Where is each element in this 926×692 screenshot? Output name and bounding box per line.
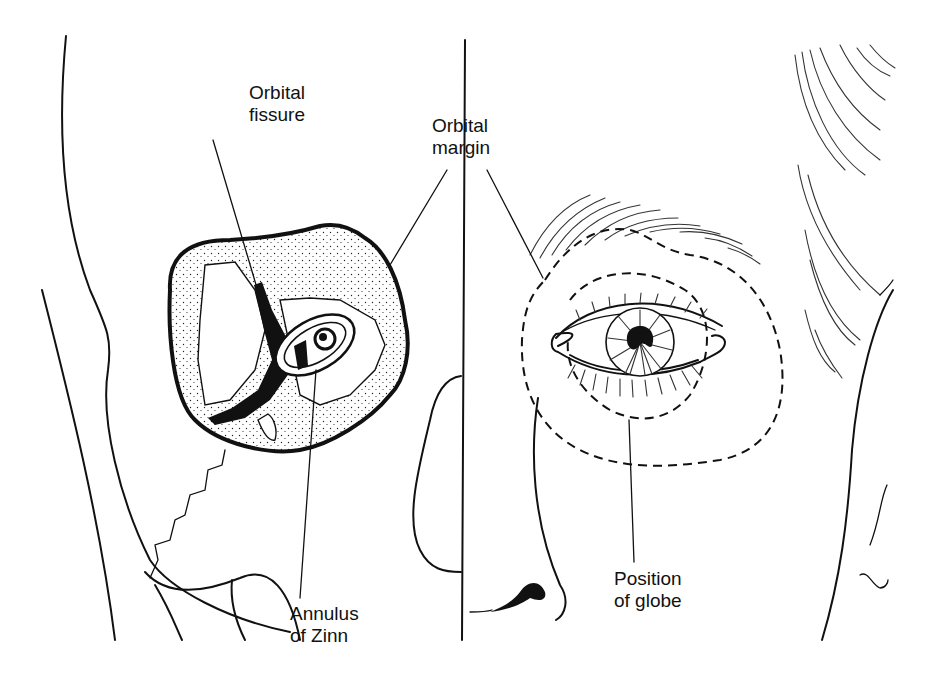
label-orbital-margin: Orbital margin xyxy=(432,115,490,159)
leader-globe xyxy=(629,420,634,562)
face-side xyxy=(470,45,895,640)
label-annulus-of-zinn: Annulus of Zinn xyxy=(290,603,359,647)
label-line: Orbital xyxy=(249,82,305,104)
leader-orbital-margin-right xyxy=(487,170,543,278)
leader-orbital-margin-left xyxy=(390,170,447,265)
orbit-illustration xyxy=(0,0,926,692)
label-line: margin xyxy=(432,137,490,159)
label-orbital-fissure: Orbital fissure xyxy=(249,82,305,126)
label-line: fissure xyxy=(249,104,305,126)
label-line: Position xyxy=(614,568,682,590)
label-line: Annulus xyxy=(290,603,359,625)
label-line: of Zinn xyxy=(290,625,359,647)
bony-orbit xyxy=(170,225,408,451)
label-line: of globe xyxy=(614,590,682,612)
anatomy-figure: Orbital fissure Orbital margin Annulus o… xyxy=(0,0,926,692)
label-line: Orbital xyxy=(432,115,490,137)
label-position-of-globe: Position of globe xyxy=(614,568,682,612)
